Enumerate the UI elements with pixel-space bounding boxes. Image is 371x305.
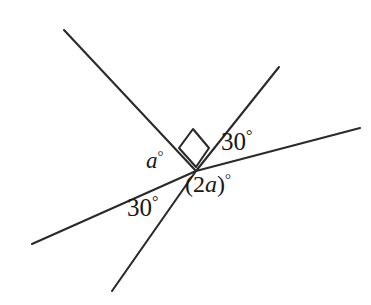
geometry-figure: a° (2a)° 30° 30° — [0, 0, 371, 305]
angle-30-lower-left-degree-icon: ° — [152, 193, 158, 210]
angle-label-30-upper-right: 30° — [221, 128, 252, 154]
angle-a-degree-icon: ° — [158, 148, 164, 164]
line-upper-left-ray — [64, 30, 196, 171]
angle-label-30-lower-left: 30° — [127, 194, 158, 220]
angle-two-a-open: (2 — [185, 171, 205, 197]
angle-30-upper-right-value: 30 — [221, 128, 246, 155]
angle-two-a-degree-icon: ° — [225, 171, 231, 187]
angle-label-two-a: (2a)° — [185, 172, 231, 196]
line-upper-right-ray — [196, 67, 279, 171]
angle-two-a-variable: a — [205, 171, 217, 197]
angle-30-lower-left-value: 30 — [127, 194, 152, 221]
angle-30-upper-right-degree-icon: ° — [246, 127, 252, 144]
angle-two-a-close: ) — [217, 171, 225, 197]
figure-canvas — [0, 0, 371, 305]
angle-label-a: a° — [146, 149, 164, 172]
angle-a-variable: a — [146, 148, 158, 173]
